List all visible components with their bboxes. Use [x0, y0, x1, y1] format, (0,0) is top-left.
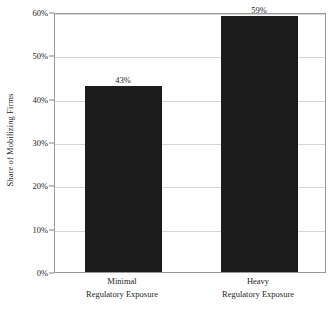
bar[interactable] — [221, 16, 298, 272]
bar-group: 59% — [221, 14, 298, 272]
y-tick-label: 60% — [32, 8, 48, 18]
y-tick-label: 10% — [32, 225, 48, 235]
x-axis-category-line-1: Heavy — [190, 275, 326, 288]
x-axis-category-line-2: Regulatory Exposure — [190, 288, 326, 301]
y-tick-label: 50% — [32, 51, 48, 61]
plot-area: 43%59% — [54, 13, 326, 273]
bar-group: 43% — [85, 14, 162, 272]
x-axis-category-line-1: Minimal — [54, 275, 190, 288]
bars-layer: 43%59% — [55, 14, 325, 272]
y-axis-ticks: 0%10%20%30%40%50%60% — [20, 0, 54, 315]
y-tick-label: 0% — [37, 268, 48, 278]
x-axis-labels: MinimalRegulatory ExposureHeavyRegulator… — [54, 275, 326, 315]
y-tick-label: 20% — [32, 181, 48, 191]
y-tick-label: 30% — [32, 138, 48, 148]
bar-value-label: 43% — [85, 75, 162, 85]
x-axis-category-line-2: Regulatory Exposure — [54, 288, 190, 301]
bar[interactable] — [85, 86, 162, 272]
x-axis-category-label: MinimalRegulatory Exposure — [54, 275, 190, 300]
bar-value-label: 59% — [221, 5, 298, 15]
y-axis-title-text: Share of Mobilizing Firms — [5, 94, 15, 187]
y-axis-title: Share of Mobilizing Firms — [0, 0, 20, 280]
y-tick-label: 40% — [32, 95, 48, 105]
bar-chart: Share of Mobilizing Firms 0%10%20%30%40%… — [0, 0, 336, 315]
x-axis-category-label: HeavyRegulatory Exposure — [190, 275, 326, 300]
